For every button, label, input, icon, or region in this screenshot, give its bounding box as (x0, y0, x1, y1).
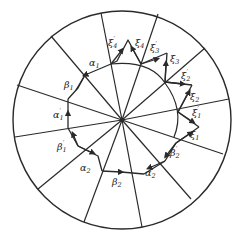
label-alpha2: α2 (80, 162, 91, 175)
label-beta2-prime: β2′ (169, 145, 180, 160)
label-xi2-prime: ξ2′ (181, 68, 190, 83)
label-alpha1-prime: α1′ (53, 107, 64, 122)
label-xi4-prime: ξ4′ (108, 35, 117, 50)
label-alpha1: α1 (89, 57, 100, 70)
label-xi3-prime: ξ3′ (150, 40, 159, 55)
label-xi1: ξ1 (190, 129, 199, 142)
label-xi1-prime: ξ1′ (192, 105, 201, 120)
disk-diagram: ξ4′ ξ4 ξ3′ ξ3 ξ2′ ξ2 ξ1′ ξ1 β2′ α2′ β2 α… (0, 0, 244, 236)
label-beta2: β2 (111, 176, 122, 189)
label-xi4: ξ4 (135, 37, 144, 50)
center-hub (120, 118, 124, 122)
label-beta1-prime: β1′ (56, 139, 67, 154)
label-xi2: ξ2 (190, 91, 199, 104)
label-beta1: β1 (63, 79, 74, 92)
label-xi3: ξ3 (170, 53, 179, 66)
